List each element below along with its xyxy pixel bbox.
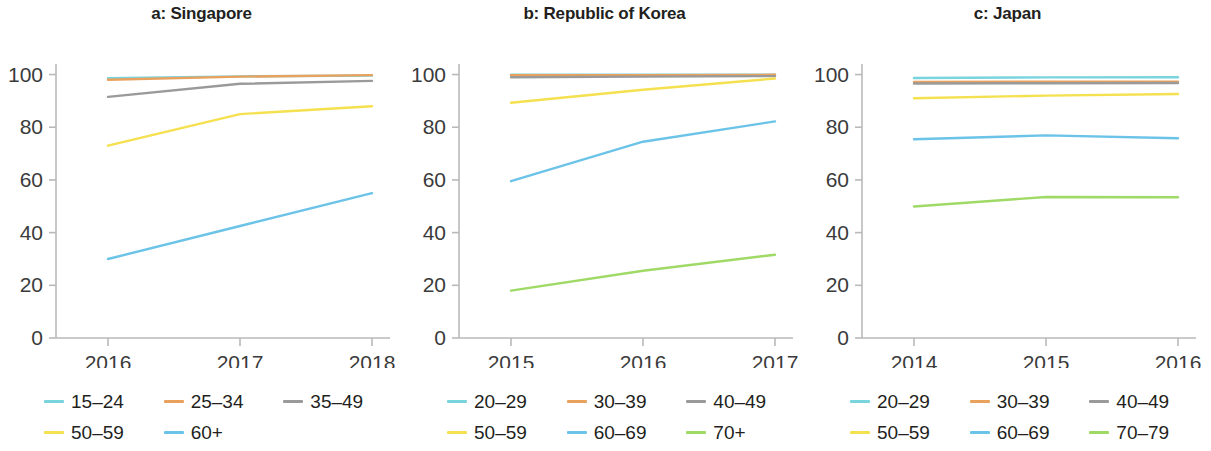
legend-item[interactable]: 70–79 bbox=[1089, 423, 1209, 442]
legend-item[interactable]: 30–39 bbox=[567, 392, 687, 411]
legend-label: 30–39 bbox=[997, 392, 1050, 411]
x-tick-label: 2017 bbox=[217, 351, 264, 368]
panel-a-legend: 15–2425–3435–4950–5960+ bbox=[0, 386, 403, 448]
legend-item[interactable]: 25–34 bbox=[164, 392, 284, 411]
x-tick-label: 2017 bbox=[752, 351, 799, 368]
x-tick-label: 2014 bbox=[891, 351, 938, 368]
y-tick-label: 40 bbox=[826, 221, 849, 244]
legend-swatch-icon bbox=[44, 400, 64, 403]
legend-swatch-icon bbox=[283, 400, 303, 403]
panel-b: b: Republic of Korea 0204060801002015201… bbox=[403, 0, 806, 451]
legend-item[interactable]: 20–29 bbox=[850, 392, 970, 411]
legend-swatch-icon bbox=[970, 431, 990, 434]
series-line-50-59 bbox=[914, 94, 1178, 98]
legend-item[interactable]: 30–39 bbox=[970, 392, 1090, 411]
legend-swatch-icon bbox=[447, 431, 467, 434]
y-tick-label: 0 bbox=[837, 326, 849, 349]
panel-a-plot-svg: 020406080100201620172018 bbox=[0, 38, 403, 368]
y-tick-label: 100 bbox=[814, 63, 849, 86]
panel-b-plot: 020406080100201520162017 bbox=[403, 38, 806, 368]
figure-three-panel-line-charts: a: Singapore 020406080100201620172018 15… bbox=[0, 0, 1211, 451]
y-tick-label: 80 bbox=[20, 115, 43, 138]
x-tick-label: 2016 bbox=[620, 351, 667, 368]
legend-item[interactable]: 40–49 bbox=[686, 392, 806, 411]
series-line-50-59 bbox=[108, 106, 372, 146]
legend-label: 40–49 bbox=[713, 392, 766, 411]
y-tick-label: 20 bbox=[826, 273, 849, 296]
panel-b-plot-svg: 020406080100201520162017 bbox=[403, 38, 806, 368]
legend-item[interactable]: 70+ bbox=[686, 423, 806, 442]
legend-swatch-icon bbox=[44, 431, 64, 434]
legend-label: 60–69 bbox=[594, 423, 647, 442]
panel-c: c: Japan 020406080100201420152016 20–293… bbox=[806, 0, 1209, 451]
legend-item[interactable]: 50–59 bbox=[850, 423, 970, 442]
panel-c-plot: 020406080100201420152016 bbox=[806, 38, 1209, 368]
y-tick-label: 100 bbox=[411, 63, 446, 86]
panel-b-legend: 20–2930–3940–4950–5960–6970+ bbox=[403, 386, 806, 448]
legend-label: 60+ bbox=[191, 423, 223, 442]
legend-item[interactable]: 60+ bbox=[164, 423, 284, 442]
panel-a-title: a: Singapore bbox=[0, 4, 403, 24]
legend-swatch-icon bbox=[164, 400, 184, 403]
series-line-70-79 bbox=[914, 197, 1178, 207]
legend-swatch-icon bbox=[850, 431, 870, 434]
y-tick-label: 0 bbox=[31, 326, 43, 349]
panel-a: a: Singapore 020406080100201620172018 15… bbox=[0, 0, 403, 451]
y-tick-label: 0 bbox=[434, 326, 446, 349]
legend-label: 50–59 bbox=[71, 423, 124, 442]
legend-label: 20–29 bbox=[474, 392, 527, 411]
series-line-60-69 bbox=[914, 135, 1178, 139]
series-line-40-49 bbox=[511, 76, 775, 77]
legend-label: 35–49 bbox=[310, 392, 363, 411]
legend-label: 30–39 bbox=[594, 392, 647, 411]
legend-swatch-icon bbox=[686, 431, 706, 434]
legend-item[interactable]: 60–69 bbox=[970, 423, 1090, 442]
series-line-70- bbox=[511, 255, 775, 291]
legend-label: 50–59 bbox=[877, 423, 930, 442]
legend-item[interactable]: 50–59 bbox=[44, 423, 164, 442]
legend-item[interactable]: 35–49 bbox=[283, 392, 403, 411]
legend-label: 70+ bbox=[713, 423, 745, 442]
legend-item[interactable]: 40–49 bbox=[1089, 392, 1209, 411]
y-tick-label: 80 bbox=[423, 115, 446, 138]
y-tick-label: 40 bbox=[20, 221, 43, 244]
legend-swatch-icon bbox=[567, 400, 587, 403]
x-tick-label: 2015 bbox=[1023, 351, 1070, 368]
panel-c-legend: 20–2930–3940–4950–5960–6970–79 bbox=[806, 386, 1209, 448]
legend-swatch-icon bbox=[1089, 431, 1109, 434]
panel-b-title: b: Republic of Korea bbox=[403, 4, 806, 24]
y-tick-label: 20 bbox=[423, 273, 446, 296]
legend-label: 60–69 bbox=[997, 423, 1050, 442]
legend-item[interactable]: 50–59 bbox=[447, 423, 567, 442]
x-tick-label: 2016 bbox=[85, 351, 132, 368]
y-tick-label: 20 bbox=[20, 273, 43, 296]
y-tick-label: 60 bbox=[423, 168, 446, 191]
y-tick-label: 100 bbox=[8, 63, 43, 86]
y-tick-label: 60 bbox=[20, 168, 43, 191]
y-tick-label: 40 bbox=[423, 221, 446, 244]
legend-item[interactable]: 15–24 bbox=[44, 392, 164, 411]
series-line-50-59 bbox=[511, 79, 775, 103]
legend-swatch-icon bbox=[447, 400, 467, 403]
legend-swatch-icon bbox=[567, 431, 587, 434]
legend-label: 15–24 bbox=[71, 392, 124, 411]
series-line-60-69 bbox=[511, 121, 775, 181]
y-tick-label: 60 bbox=[826, 168, 849, 191]
y-tick-label: 80 bbox=[826, 115, 849, 138]
legend-label: 50–59 bbox=[474, 423, 527, 442]
series-line-60- bbox=[108, 193, 372, 259]
legend-label: 25–34 bbox=[191, 392, 244, 411]
panel-c-plot-svg: 020406080100201420152016 bbox=[806, 38, 1209, 368]
x-tick-label: 2015 bbox=[488, 351, 535, 368]
legend-label: 20–29 bbox=[877, 392, 930, 411]
x-tick-label: 2016 bbox=[1155, 351, 1202, 368]
legend-item[interactable]: 60–69 bbox=[567, 423, 687, 442]
legend-label: 40–49 bbox=[1116, 392, 1169, 411]
legend-swatch-icon bbox=[686, 400, 706, 403]
legend-item[interactable]: 20–29 bbox=[447, 392, 567, 411]
x-tick-label: 2018 bbox=[349, 351, 396, 368]
legend-swatch-icon bbox=[850, 400, 870, 403]
series-line-35-49 bbox=[108, 81, 372, 97]
series-line-40-49 bbox=[914, 83, 1178, 84]
legend-swatch-icon bbox=[1089, 400, 1109, 403]
